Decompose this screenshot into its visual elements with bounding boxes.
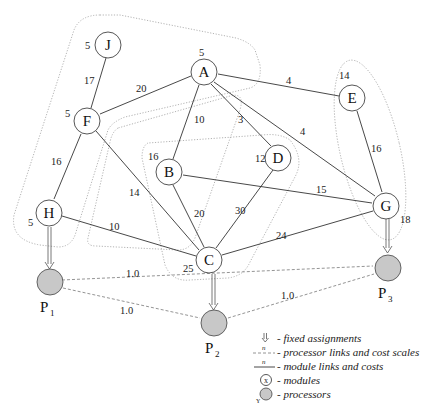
weight-b: 16 — [148, 151, 159, 162]
svg-text:Y: Y — [256, 398, 261, 404]
svg-text:n: n — [262, 358, 266, 366]
cost-e-g: 16 — [371, 143, 382, 154]
link-b-g — [183, 175, 372, 203]
legend-module-links: n - module links and costs — [254, 358, 383, 372]
svg-text:G: G — [381, 198, 392, 214]
processor-node-p2[interactable]: P 2 — [201, 310, 227, 359]
legend-processors: Y - processors — [256, 388, 331, 404]
processor-node-p1[interactable]: P 1 — [37, 269, 63, 318]
svg-text:- processor links and cost sca: - processor links and cost scales — [277, 346, 419, 358]
svg-text:P: P — [205, 340, 213, 356]
svg-text:J: J — [105, 37, 111, 53]
svg-text:B: B — [164, 164, 174, 180]
module-node-j[interactable]: J 5 — [85, 32, 121, 58]
svg-text:x: x — [264, 376, 268, 385]
processor-node-p3[interactable]: P 3 — [375, 255, 401, 304]
svg-text:D: D — [273, 150, 284, 166]
svg-text:- modules: - modules — [277, 374, 320, 386]
legend-fixed-assignments: - fixed assignments — [262, 332, 361, 344]
cost-a-d: 3 — [238, 114, 243, 125]
link-h-c — [62, 216, 196, 256]
weight-e: 14 — [339, 70, 350, 81]
link-c-g — [222, 211, 373, 255]
fixed-arrow-h-p1 — [45, 227, 54, 269]
svg-text:3: 3 — [388, 294, 393, 304]
link-f-c — [96, 131, 199, 250]
cost-c-g: 24 — [276, 230, 287, 241]
cost-a-g: 4 — [300, 126, 306, 137]
legend: - fixed assignments n - processor links … — [253, 332, 419, 404]
svg-text:H: H — [44, 205, 55, 221]
cost-f-h: 16 — [51, 156, 62, 167]
svg-text:E: E — [347, 90, 356, 106]
svg-text:P: P — [40, 299, 48, 315]
svg-text:F: F — [83, 113, 91, 129]
link-a-e — [218, 74, 339, 96]
svg-text:- processors: - processors — [277, 388, 331, 400]
cost-j-f: 17 — [84, 75, 95, 86]
module-node-d[interactable]: D 12 — [255, 145, 291, 171]
plink-cost-p2-p3: 1.0 — [281, 290, 294, 301]
module-node-e[interactable]: E 14 — [339, 70, 365, 111]
module-node-h[interactable]: H 5 — [28, 200, 62, 228]
cost-h-c: 10 — [109, 221, 120, 232]
weight-h: 5 — [28, 217, 33, 228]
cost-d-c: 30 — [235, 205, 246, 216]
processor-circle-icon — [260, 388, 272, 400]
cost-b-c: 20 — [194, 208, 205, 219]
weight-g: 18 — [400, 214, 411, 225]
svg-text:n: n — [262, 344, 266, 352]
svg-text:P: P — [378, 285, 386, 301]
cost-f-c: 14 — [129, 187, 140, 198]
fixed-arrow-c-p2 — [209, 274, 218, 310]
svg-text:- module links and costs: - module links and costs — [277, 360, 383, 372]
weight-c: 25 — [183, 263, 194, 274]
fixed-arrow-g-p3 — [383, 219, 392, 253]
module-node-b[interactable]: B 16 — [148, 151, 182, 185]
svg-text:A: A — [199, 64, 210, 80]
cost-a-e: 4 — [286, 75, 292, 86]
legend-processor-links: n - processor links and cost scales — [253, 344, 419, 358]
svg-text:C: C — [204, 252, 214, 268]
task-assignment-diagram: 1.0 1.0 1.0 17 20 4 10 3 4 16 16 14 15 2… — [0, 0, 432, 419]
plink-cost-p1-p3: 1.0 — [126, 268, 139, 279]
weight-j: 5 — [85, 40, 90, 51]
module-node-g[interactable]: G 18 — [373, 193, 411, 225]
weight-d: 12 — [255, 153, 266, 164]
processor-link-p2-p3 — [228, 274, 374, 318]
cost-f-a: 20 — [136, 83, 147, 94]
weight-a: 5 — [199, 47, 204, 58]
link-f-a — [100, 76, 191, 114]
cost-a-b: 10 — [194, 114, 205, 125]
legend-modules: x - modules — [261, 374, 321, 386]
weight-f: 5 — [65, 108, 70, 119]
fixed-arrow-icon — [262, 333, 269, 342]
module-node-a[interactable]: A 5 — [191, 47, 217, 85]
module-node-c[interactable]: C 25 — [183, 247, 222, 274]
svg-text:1: 1 — [50, 308, 55, 318]
module-node-f[interactable]: F 5 — [65, 108, 100, 134]
svg-text:- fixed assignments: - fixed assignments — [277, 332, 361, 344]
cost-b-g: 15 — [316, 184, 327, 195]
svg-text:2: 2 — [215, 349, 220, 359]
plink-cost-p1-p2: 1.0 — [120, 305, 133, 316]
